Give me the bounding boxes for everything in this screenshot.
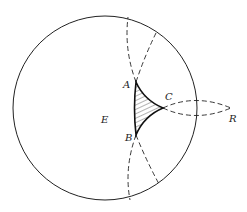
label-a: A [122,79,130,90]
diagram-canvas: A B C E R [0,0,247,212]
dashed-arc-bottom-left [128,135,136,200]
main-circle [13,16,197,200]
label-c: C [165,91,173,102]
label-r: R [228,113,237,124]
label-b: B [124,132,132,143]
hatched-triangle-abc [135,82,164,135]
dashed-arc-top-left [127,17,136,82]
dashed-arc-bottom-right [136,135,159,184]
dashed-arc-top-right [136,31,157,82]
label-e: E [100,114,109,125]
